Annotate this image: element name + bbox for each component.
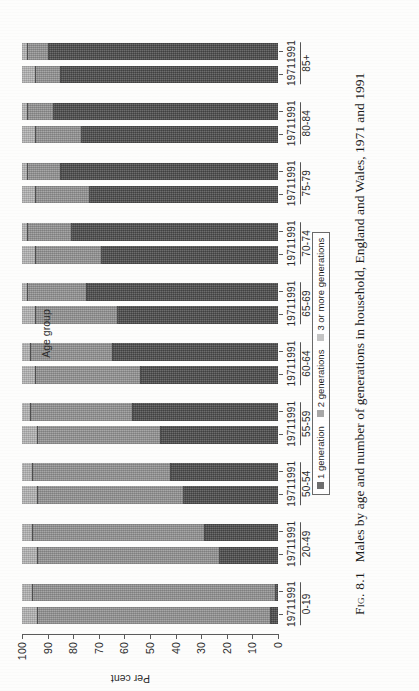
x-axis-tick-mark [279, 531, 283, 532]
legend-item-label: 3 or more generations [315, 238, 326, 331]
bar-segment-3-or-more-generations [22, 186, 35, 204]
legend-swatch-2-generations [317, 410, 324, 417]
y-axis-tick-label: 10 [246, 642, 258, 654]
bar-segment-2-generations [37, 426, 160, 444]
y-axis-tick-mark [252, 635, 253, 639]
y-axis-tick-label: 0 [272, 642, 284, 648]
x-axis-tick-mark [279, 434, 283, 435]
y-axis-tick-mark [227, 635, 228, 639]
stacked-bar [22, 464, 278, 482]
y-axis-tick-mark [201, 635, 202, 639]
legend-item-label: 1 generation [315, 426, 326, 479]
stacked-bar [22, 403, 278, 421]
x-axis-year-label: 1991 [286, 220, 297, 243]
x-axis-year-label: 1971 [286, 183, 297, 206]
bar-segment-3-or-more-generations [22, 584, 32, 602]
bar-segment-3-or-more-generations [22, 126, 35, 144]
x-axis-tick-mark [279, 254, 283, 255]
bar-segment-3-or-more-generations [22, 607, 37, 625]
bar-segment-1-generation [81, 126, 278, 144]
y-axis-tick-mark [124, 635, 125, 639]
stacked-bar [22, 366, 278, 384]
x-axis-year-label: 1971 [286, 604, 297, 627]
x-axis-tick-mark [279, 74, 283, 75]
x-axis-tick-mark [279, 171, 283, 172]
y-axis-tick-mark [176, 635, 177, 639]
x-axis-year-label: 1991 [286, 100, 297, 123]
figure-caption-text: Males by age and number of generations i… [352, 73, 367, 563]
x-axis-tick-mark [279, 591, 283, 592]
bar-segment-1-generation [170, 464, 278, 482]
y-axis-tick-label: 70 [93, 642, 105, 654]
age-group-label: 60-64 [301, 350, 312, 377]
age-group-label: 75-79 [301, 170, 312, 197]
stacked-bar [22, 103, 278, 121]
bar-segment-1-generation [86, 283, 278, 301]
x-axis-year-label: 1991 [286, 461, 297, 484]
x-axis-year-label: 1991 [286, 160, 297, 183]
y-axis-tick-label: 100 [16, 642, 28, 660]
x-axis-tick-mark [279, 231, 283, 232]
y-axis-tick-label: 30 [195, 642, 207, 654]
bar-segment-1-generation [71, 223, 278, 241]
legend-item-label: 2 generations [315, 350, 326, 408]
x-axis-tick-mark [279, 351, 283, 352]
y-axis-tick-label: 80 [67, 642, 79, 654]
chart-legend: 1 generation2 generations3 or more gener… [312, 232, 330, 495]
bar-segment-3-or-more-generations [22, 66, 35, 84]
bar-segment-2-generations [37, 487, 183, 505]
legend-item: 3 or more generations [315, 238, 326, 341]
bar-segment-2-generations [37, 547, 219, 565]
stacked-bar [22, 223, 278, 241]
bar-segment-1-generation [112, 343, 278, 361]
x-axis-year-label: 1971 [286, 123, 297, 146]
age-group-label: 80-84 [301, 110, 312, 137]
bar-segment-1-generation [48, 43, 278, 61]
bar-segment-3-or-more-generations [22, 403, 30, 421]
bar-segment-1-generation [140, 366, 278, 384]
bar-segment-2-generations [32, 584, 275, 602]
x-axis-year-label: 1991 [286, 401, 297, 424]
bar-segment-2-generations [27, 283, 86, 301]
x-axis-tick-mark [279, 494, 283, 495]
x-axis-tick-mark [279, 614, 283, 615]
bar-segment-3-or-more-generations [22, 426, 37, 444]
x-axis-tick-mark [279, 194, 283, 195]
x-axis-year-label: 1971 [286, 544, 297, 567]
bar-segment-3-or-more-generations [22, 343, 30, 361]
x-axis-tick-mark [279, 51, 283, 52]
bar-segment-1-generation [101, 246, 278, 264]
x-axis-year-label: 1971 [286, 364, 297, 387]
x-axis-tick-mark [279, 411, 283, 412]
bar-segment-2-generations [37, 607, 270, 625]
x-axis-year-label: 1991 [286, 341, 297, 364]
stacked-bar [22, 126, 278, 144]
y-axis-tick-label: 40 [170, 642, 182, 654]
legend-swatch-3-or-more-generations [317, 334, 324, 341]
figure-number: Fig. 8.1 [352, 572, 367, 615]
scanned-page: Per cent 0102030405060708090100 19711991… [0, 0, 419, 691]
x-axis-tick-mark [279, 471, 283, 472]
stacked-bar [22, 547, 278, 565]
bar-series-area [22, 33, 278, 634]
x-axis-year-label: 1991 [286, 521, 297, 544]
x-axis-year-label: 1991 [286, 581, 297, 604]
y-axis-tick-mark [278, 635, 279, 639]
x-axis-tick-mark [279, 554, 283, 555]
y-axis-tick-mark [48, 635, 49, 639]
stacked-bar [22, 163, 278, 181]
age-group-label: 65-69 [301, 290, 312, 317]
chart-figure: Per cent 0102030405060708090100 19711991… [0, 0, 342, 691]
stacked-bar [22, 43, 278, 61]
bar-segment-1-generation [160, 426, 278, 444]
y-axis-tick-mark [73, 635, 74, 639]
bar-segment-1-generation [219, 547, 278, 565]
y-axis-tick-label: 20 [221, 642, 233, 654]
bar-segment-1-generation [117, 306, 278, 324]
bar-segment-3-or-more-generations [22, 464, 32, 482]
x-axis-tick-mark [279, 111, 283, 112]
bar-segment-1-generation [60, 66, 278, 84]
age-group-label: 85+ [301, 54, 312, 72]
bar-segment-1-generation [183, 487, 278, 505]
age-group-label: 55-59 [301, 410, 312, 437]
